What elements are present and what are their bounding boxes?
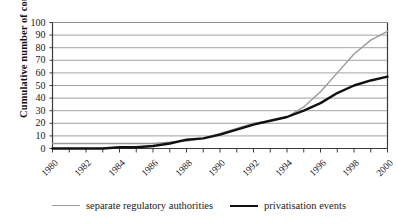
y-tick-label: 30 (20, 106, 46, 116)
y-tick-label: 0 (20, 144, 46, 154)
legend-label: privatisation events (264, 200, 346, 211)
y-tick-label: 100 (20, 18, 46, 28)
y-tick-label: 60 (20, 68, 46, 78)
y-tick-label: 90 (20, 30, 46, 40)
legend-item-privatisation-events: privatisation events (230, 200, 346, 211)
legend-line-icon-black (230, 205, 258, 207)
gridlines (53, 23, 388, 149)
data-series (53, 31, 388, 148)
series-line (53, 31, 388, 143)
legend-item-separate-regulatory-authorities: separate regulatory authorities (52, 200, 213, 211)
y-tick-label: 20 (20, 118, 46, 128)
series-line (53, 77, 388, 149)
y-tick-label: 10 (20, 131, 46, 141)
y-tick-label: 70 (20, 55, 46, 65)
chart-legend: separate regulatory authorities privatis… (0, 200, 398, 211)
y-tick-label: 80 (20, 43, 46, 53)
y-tick-label: 50 (20, 81, 46, 91)
y-tick-label: 40 (20, 93, 46, 103)
legend-line-icon-gray (52, 205, 80, 206)
legend-label: separate regulatory authorities (86, 200, 213, 211)
plot-area (0, 0, 398, 224)
chart-container: Cumulative number of countries 010203040… (0, 0, 398, 224)
